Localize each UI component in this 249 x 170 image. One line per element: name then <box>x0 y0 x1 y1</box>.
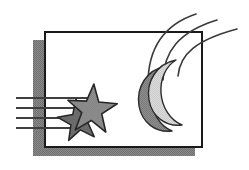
clipart-svg <box>0 0 249 170</box>
frame-white-rect <box>45 32 202 147</box>
clipart-canvas <box>0 0 249 170</box>
